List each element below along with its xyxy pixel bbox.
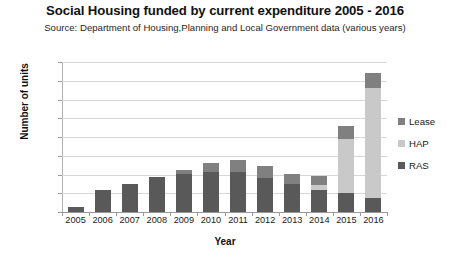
legend-label: HAP (409, 138, 429, 149)
bar-stack (257, 62, 273, 212)
y-axis-tick-mark (58, 100, 62, 101)
y-axis-tick-mark (58, 193, 62, 194)
y-axis-tick-mark (58, 137, 62, 138)
bar-stack (176, 62, 192, 212)
legend-item-ras[interactable]: RAS (398, 154, 450, 176)
bar-segment-lease (284, 174, 300, 184)
bar-stack (149, 62, 165, 212)
x-axis-tick-mark (143, 213, 144, 216)
x-axis-tick-mark (116, 213, 117, 216)
bar-segment-lease (338, 126, 354, 139)
legend-swatch-icon (398, 140, 405, 147)
bar-stack (122, 62, 138, 212)
x-axis-tick-mark (62, 213, 63, 216)
y-axis-tick-mark (58, 118, 62, 119)
bar-stack (284, 62, 300, 212)
chart-legend: LeaseHAPRAS (398, 110, 450, 176)
bar-segment-hap (311, 185, 327, 190)
bar-segment-ras (338, 193, 354, 212)
legend-swatch-icon (398, 118, 405, 125)
y-axis-tick-mark (58, 62, 62, 63)
bar-segment-ras (311, 190, 327, 212)
bar-segment-ras (365, 198, 381, 212)
x-axis-tick-mark (360, 213, 361, 216)
x-axis-tick-label: 2013 (279, 215, 306, 225)
bar-segment-lease (176, 170, 192, 174)
x-axis-tick-label: 2011 (225, 215, 252, 225)
x-axis-tick-mark (333, 213, 334, 216)
bar-stack (365, 62, 381, 212)
x-axis-tick-mark (170, 213, 171, 216)
bar-stack (68, 62, 84, 212)
chart-title: Social Housing funded by current expendi… (0, 3, 450, 18)
bar-stack (338, 62, 354, 212)
x-axis-tick-label: 2006 (89, 215, 116, 225)
x-axis-tick-mark (197, 213, 198, 216)
x-axis-tick-mark (89, 213, 90, 216)
x-axis-tick-label: 2007 (116, 215, 143, 225)
bar-segment-lease (311, 176, 327, 185)
bar-segment-ras (176, 174, 192, 212)
legend-item-lease[interactable]: Lease (398, 110, 450, 132)
legend-label: RAS (409, 160, 429, 171)
x-axis-tick-label: 2008 (143, 215, 170, 225)
legend-item-hap[interactable]: HAP (398, 132, 450, 154)
x-axis-tick-label: 2014 (306, 215, 333, 225)
bar-segment-ras (230, 172, 246, 212)
x-axis-tick-label: 2009 (170, 215, 197, 225)
bar-segment-ras (257, 178, 273, 212)
legend-swatch-icon (398, 162, 405, 169)
bar-segment-lease (230, 160, 246, 172)
bar-segment-lease (203, 163, 219, 171)
bar-segment-hap (365, 88, 381, 199)
chart-source-subtitle: Source: Department of Housing,Planning a… (0, 22, 450, 33)
bar-stack (230, 62, 246, 212)
y-axis-tick-mark (58, 175, 62, 176)
x-axis-tick-mark (306, 213, 307, 216)
bar-segment-ras (68, 207, 84, 212)
y-axis-title: Number of units (19, 32, 30, 172)
bar-segment-lease (365, 73, 381, 88)
bar-stack (95, 62, 111, 212)
bar-segment-ras (122, 184, 138, 212)
legend-label: Lease (409, 116, 435, 127)
x-axis-tick-mark (225, 213, 226, 216)
y-axis-tick-mark (58, 156, 62, 157)
bar-segment-ras (284, 184, 300, 212)
x-axis-tick-label: 2015 (333, 215, 360, 225)
plot-area (62, 62, 387, 212)
x-axis-tick-mark (252, 213, 253, 216)
bar-segment-lease (257, 166, 273, 178)
x-axis-tick-mark (387, 213, 388, 216)
bar-segment-ras (203, 172, 219, 212)
bar-stack (203, 62, 219, 212)
x-axis-tick-label: 2016 (360, 215, 387, 225)
x-axis-tick-label: 2005 (62, 215, 89, 225)
bar-segment-ras (95, 190, 111, 212)
chart-container: Social Housing funded by current expendi… (0, 0, 450, 259)
x-axis-title: Year (62, 236, 388, 247)
x-axis-tick-label: 2010 (197, 215, 224, 225)
y-axis-tick-mark (58, 81, 62, 82)
x-axis-tick-mark (279, 213, 280, 216)
bar-segment-ras (149, 177, 165, 212)
bar-segment-hap (338, 139, 354, 193)
x-axis-tick-label: 2012 (252, 215, 279, 225)
bar-stack (311, 62, 327, 212)
